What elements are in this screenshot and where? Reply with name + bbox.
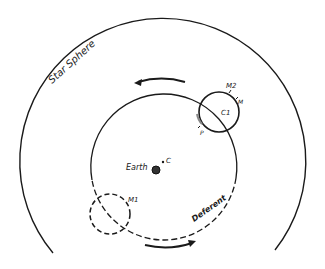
tick-m2	[229, 90, 231, 93]
star-sphere-label: Star Sphere	[46, 38, 97, 86]
earth-label: Earth	[126, 163, 147, 172]
star-sphere-arc	[20, 18, 306, 253]
earth-icon	[152, 166, 160, 174]
arrow-bottom-icon	[145, 240, 196, 247]
epicycle-diagram: Star Sphere Deferent Earth C C1 M2 M P M…	[0, 0, 325, 269]
epicycle-center-label: C1	[221, 109, 230, 117]
epicycle-solid	[199, 92, 239, 132]
m-label: M	[238, 98, 244, 105]
p-label: P	[200, 129, 204, 136]
tick-p	[198, 126, 200, 128]
arrow-top-icon	[134, 79, 185, 86]
deferent-solid-arc	[91, 94, 237, 180]
m1-label: M1	[128, 196, 139, 204]
m2-label: M2	[226, 82, 237, 90]
center-point	[162, 161, 164, 163]
deferent-label: Deferent	[190, 193, 229, 224]
center-label: C	[166, 157, 171, 165]
